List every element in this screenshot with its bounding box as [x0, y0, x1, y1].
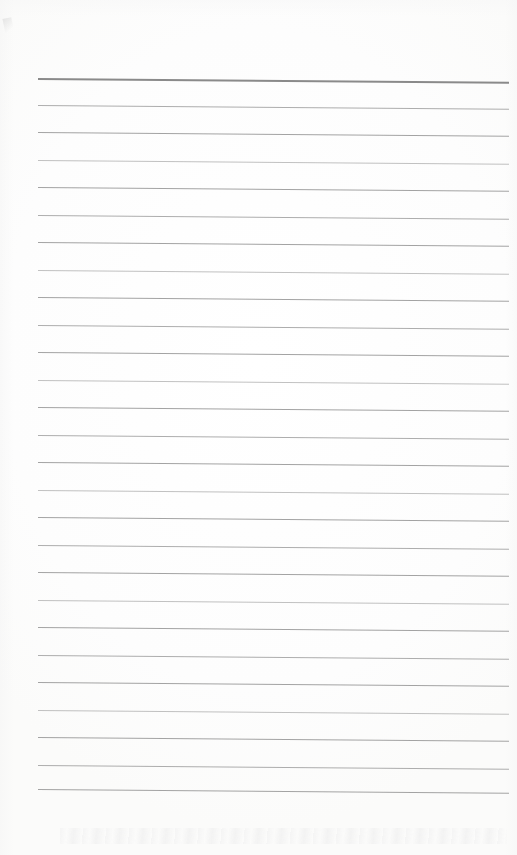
ruled-line-ink [38, 600, 509, 605]
ruled-line-ink [38, 78, 509, 84]
ruled-line [38, 325, 509, 329]
ruled-line [38, 765, 509, 769]
ruled-line [38, 655, 509, 659]
ruled-line-ink [38, 297, 509, 302]
ruled-line-ink [38, 105, 509, 110]
ruled-line-ink [38, 132, 509, 137]
ruled-line-ink [38, 380, 509, 385]
ruled-line [38, 572, 509, 576]
ruled-line-ink [38, 682, 509, 687]
ruled-line-ink [38, 325, 509, 330]
scanned-page [0, 0, 517, 855]
ruled-line [38, 160, 509, 164]
ruled-line-ink [38, 572, 509, 577]
ruled-line-ink [38, 737, 509, 742]
ruled-line [38, 105, 509, 109]
ruled-line-ink [38, 462, 509, 467]
ruled-line-ink [38, 545, 509, 550]
ruled-line-ink [38, 710, 509, 715]
ruled-line-ink [38, 789, 509, 794]
ruled-line [38, 215, 509, 219]
ruled-line-ink [38, 435, 509, 440]
ruled-line [38, 187, 509, 191]
ruled-line [38, 545, 509, 549]
ruled-line [38, 737, 509, 741]
ruled-line-ink [38, 352, 509, 357]
ruled-line [38, 270, 509, 274]
ruled-line-ink [38, 627, 509, 632]
ruled-line-ink [38, 655, 509, 660]
ruled-line [38, 600, 509, 604]
ruled-line-ink [38, 242, 509, 247]
ruled-line [38, 132, 509, 136]
ruled-line-ink [38, 270, 509, 275]
ruled-line [38, 627, 509, 631]
ruled-line [38, 710, 509, 714]
ruled-line [38, 517, 509, 521]
ruled-line-ink [38, 215, 509, 220]
ruled-line [38, 462, 509, 466]
ruled-line-ink [38, 187, 509, 192]
ruled-line [38, 78, 509, 82]
ruled-line [38, 490, 509, 494]
ruled-line-ink [38, 407, 509, 412]
ruled-line [38, 242, 509, 246]
ruled-line-ink [38, 490, 509, 495]
ruled-line [38, 435, 509, 439]
ruled-line [38, 380, 509, 384]
ruled-lines-group [0, 0, 517, 855]
ruled-line [38, 352, 509, 356]
ruled-line-ink [38, 765, 509, 770]
ruled-line [38, 682, 509, 686]
ruled-line [38, 407, 509, 411]
ruled-line [38, 297, 509, 301]
ruled-line-ink [38, 517, 509, 522]
ruled-line-ink [38, 160, 509, 165]
ruled-line [38, 789, 509, 793]
